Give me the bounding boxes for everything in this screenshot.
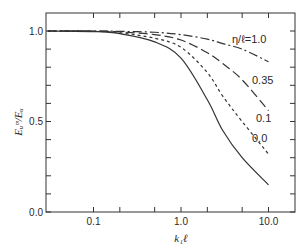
series-curve-0.1 bbox=[48, 31, 269, 154]
y-tick-label: 0.0 bbox=[29, 207, 43, 218]
x-tick-label: 10.0 bbox=[259, 216, 279, 227]
x-tick-label: 0.1 bbox=[87, 216, 101, 227]
x-tick-label: 1.0 bbox=[174, 216, 188, 227]
y-axis-tick-labels: 0.00.51.0 bbox=[29, 26, 43, 218]
series-curve-0.0 bbox=[48, 31, 269, 185]
y-tick-label: 0.5 bbox=[29, 116, 43, 127]
series-labels: η/ℓ=1.00.350.10.0 bbox=[232, 33, 273, 144]
y-tick-label: 1.0 bbox=[29, 26, 43, 37]
series-label: η/ℓ=1.0 bbox=[232, 33, 266, 45]
x-axis-title: k₁ℓ bbox=[174, 232, 188, 244]
series-label: 0.35 bbox=[252, 74, 273, 86]
x-axis-tick-labels: 0.11.010.0 bbox=[87, 216, 279, 227]
chart: 0.11.010.0 0.00.51.0 η/ℓ=1.00.350.10.0 k… bbox=[0, 0, 303, 252]
y-axis-title: Eᵤᵐ/Eᵤ bbox=[12, 108, 24, 137]
series-label: 0.1 bbox=[256, 112, 271, 124]
series-curves bbox=[48, 31, 269, 185]
series-label: 0.0 bbox=[252, 132, 267, 144]
